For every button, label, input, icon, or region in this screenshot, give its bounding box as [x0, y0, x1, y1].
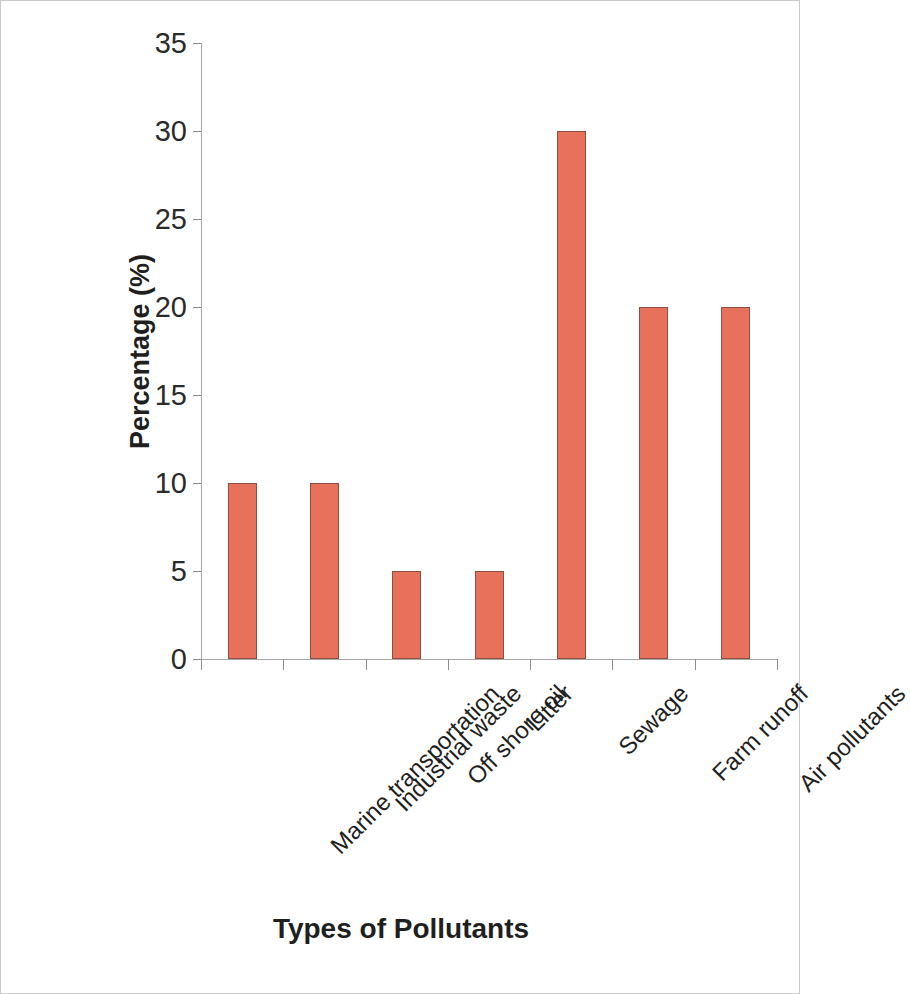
bar — [228, 483, 257, 659]
y-axis-tick-label: 35 — [155, 29, 187, 58]
bar — [310, 483, 339, 659]
x-axis-category-label: Sewage — [615, 681, 693, 759]
bar — [557, 131, 586, 659]
x-axis-line — [201, 659, 778, 660]
bar — [721, 307, 750, 659]
y-axis-tick-label: 5 — [171, 557, 187, 586]
y-axis-tick — [193, 131, 201, 132]
y-axis-tick — [193, 43, 201, 44]
bar — [392, 571, 421, 659]
x-axis-tick — [612, 659, 613, 670]
x-axis-tick — [366, 659, 367, 670]
x-axis-tick — [695, 659, 696, 670]
y-axis-tick — [193, 571, 201, 572]
y-axis-tick-label: 10 — [155, 469, 187, 498]
y-axis-tick — [193, 483, 201, 484]
bar — [639, 307, 668, 659]
bar — [475, 571, 504, 659]
y-axis-title: Percentage (%) — [1, 1, 201, 701]
plot-area: 05101520253035 — [201, 43, 777, 659]
y-axis-tick — [193, 219, 201, 220]
y-axis-tick — [193, 395, 201, 396]
y-axis-tick — [193, 659, 201, 660]
y-axis-tick-label: 15 — [155, 381, 187, 410]
x-axis-category-label: Litter — [523, 681, 578, 736]
x-axis-tick — [201, 659, 202, 670]
x-axis-category-label: Farm runoff — [708, 681, 812, 785]
x-axis-tick — [777, 659, 778, 670]
x-axis-title: Types of Pollutants — [1, 913, 801, 945]
y-axis-tick — [193, 307, 201, 308]
x-axis-tick — [530, 659, 531, 670]
y-axis-tick-label: 0 — [171, 645, 187, 674]
y-axis-tick-label: 25 — [155, 205, 187, 234]
y-axis-title-text: Percentage (%) — [125, 253, 156, 448]
y-axis-tick-label: 20 — [155, 293, 187, 322]
x-axis-tick — [448, 659, 449, 670]
x-axis-tick — [283, 659, 284, 670]
y-axis-tick-label: 30 — [155, 117, 187, 146]
